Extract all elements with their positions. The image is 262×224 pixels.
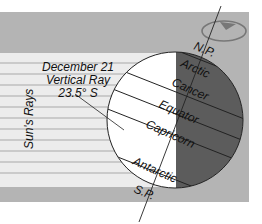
title-line-latitude: 23.5° S xyxy=(57,86,98,100)
earth-tilt-diagram: December 21 Vertical Ray 23.5° S Sun's R… xyxy=(0,0,262,224)
title-line-date: December 21 xyxy=(42,60,114,74)
sun-rays-label: Sun's Rays xyxy=(22,89,36,149)
title-line-ray: Vertical Ray xyxy=(46,73,111,87)
